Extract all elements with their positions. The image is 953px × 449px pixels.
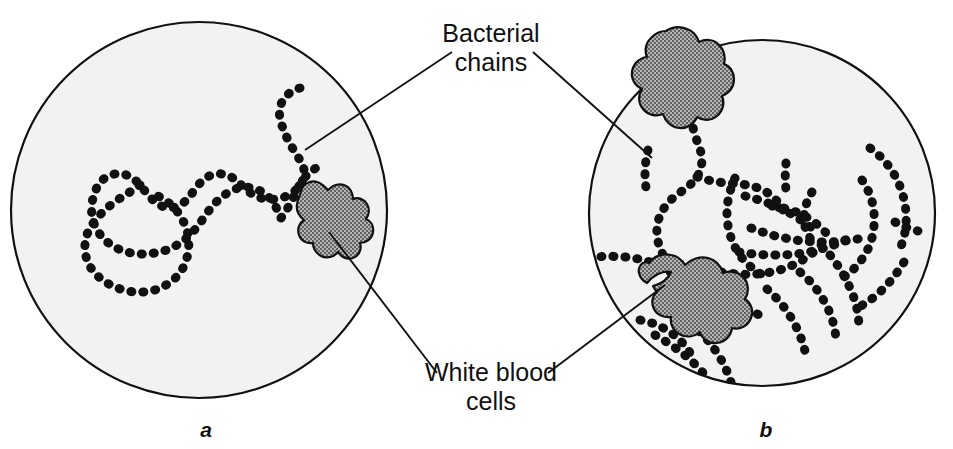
panel-b: b [589,27,935,441]
panel-a: a [11,22,387,441]
bacterial-chains-label-line1: Bacterial [442,19,539,47]
figure-container: a b Bacterial chains White blood cells [0,0,953,449]
microscopy-figure: a b Bacterial chains White blood cells [0,0,953,449]
panel-label-b: b [760,418,773,441]
bacterial-chains-label-line2: chains [455,48,527,76]
bacterial-chain [785,163,786,190]
white-blood-cell [632,27,734,128]
white-blood-cells-label-line2: cells [466,387,516,415]
annotation-white-blood-cells: White blood cells [425,358,557,415]
white-blood-cells-label-line1: White blood [425,358,557,386]
panel-label-a: a [200,418,212,441]
annotation-bacterial-chains: Bacterial chains [442,19,539,76]
